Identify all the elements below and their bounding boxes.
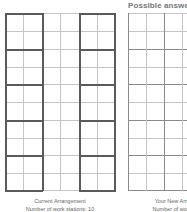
grid-line: [182, 13, 183, 191]
workstation-border: [79, 155, 116, 157]
workstation-border: [79, 84, 116, 86]
grid-line: [128, 138, 187, 139]
current-arrangement-grid: [5, 13, 115, 191]
grid-line: [5, 138, 115, 139]
new-arrangement-caption: Your New Arrangement Number of work stat…: [128, 197, 187, 212]
grid-line: [5, 31, 115, 32]
grid-line: [128, 190, 187, 191]
grid-line: [128, 84, 187, 85]
grid-line: [128, 120, 187, 121]
workstation-border: [79, 120, 116, 122]
grid-line: [5, 102, 115, 103]
grid-line: [164, 13, 165, 191]
grid-line: [128, 31, 187, 32]
grid-line: [128, 13, 129, 191]
new-arrangement-grid: [128, 13, 187, 191]
workstation-border: [5, 13, 43, 15]
possible-answer-heading: Possible answer:: [128, 1, 187, 10]
grid-line: [128, 49, 187, 50]
workstation-border: [5, 120, 43, 122]
workstation-border: [114, 13, 116, 191]
grid-line: [128, 173, 187, 174]
workstation-border: [79, 13, 116, 15]
grid-line: [128, 67, 187, 68]
workstation-border: [5, 13, 7, 191]
caption-workstation-count: Number of work stations: 10: [5, 205, 115, 212]
workstation-border: [5, 49, 43, 51]
grid-line: [146, 13, 147, 191]
workstation-border: [79, 190, 116, 192]
workstation-border: [5, 84, 43, 86]
caption-title: Current Arrangement: [5, 197, 115, 205]
grid-line: [128, 13, 187, 14]
grid-line: [5, 67, 115, 68]
workstation-border: [5, 190, 43, 192]
workstation-border: [79, 49, 116, 51]
caption-workstation-count: Number of work stations:: [128, 205, 187, 212]
workstation-border: [42, 13, 44, 191]
grid-line: [5, 173, 115, 174]
grid-line: [128, 102, 187, 103]
grid-line: [128, 155, 187, 156]
workstation-border: [79, 13, 81, 191]
workstation-border: [5, 155, 43, 157]
caption-title: Your New Arrangement: [128, 197, 187, 205]
current-arrangement-caption: Current Arrangement Number of work stati…: [5, 197, 115, 212]
